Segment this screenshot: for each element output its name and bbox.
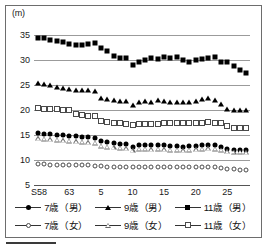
legend-item[interactable]: 7歳（男） [15,200,88,214]
filled-triangle-marker [105,205,111,210]
legend-item[interactable]: 11歳（男） [175,200,252,214]
data-point [168,165,173,170]
legend-row: 7歳（男）9歳（男）11歳（男） [5,198,262,216]
data-point [244,167,249,172]
bottom-rule [6,242,56,244]
data-point [200,165,205,170]
data-point [42,162,47,167]
data-point [174,165,179,170]
legend-item[interactable]: 11歳（女） [175,218,252,232]
data-point [111,164,116,169]
data-point [136,165,141,170]
data-point [67,162,72,167]
legend-line [175,204,201,211]
legend-label: 11歳（男） [204,200,252,214]
y-axis-tick-label: 5 [25,180,30,190]
data-point [218,165,223,170]
data-point [73,163,78,168]
chart-figure: (m) 5101520253035 S5863510152025 7歳（男）9歳… [0,0,267,248]
filled-circle-marker [26,205,31,210]
open-square-marker [185,222,191,228]
chart-legend: 7歳（男）9歳（男）11歳（男）7歳（女）9歳（女）11歳（女） [5,198,262,234]
data-point [231,167,236,172]
data-point [187,165,192,170]
legend-line [95,204,121,211]
x-axis-tick-label: S58 [31,187,47,197]
series-circle-o [34,27,250,185]
legend-line [15,204,41,211]
open-circle-marker [26,223,31,228]
data-point [143,165,148,170]
plot-area: 5101520253035 S5863510152025 [34,27,250,185]
y-axis-tick-label: 30 [20,55,30,65]
data-point [54,162,59,167]
x-axis-tick-label: 63 [64,187,74,197]
legend-label: 9歳（女） [124,218,168,232]
legend-label: 7歳（女） [44,218,88,232]
legend-item[interactable]: 7歳（女） [15,218,88,232]
data-point [117,164,122,169]
y-axis-tick-label: 35 [20,30,30,40]
open-triangle-marker [105,223,111,228]
y-axis-tick-label: 15 [20,130,30,140]
data-point [149,165,154,170]
x-axis-tick-label: 25 [222,187,232,197]
x-axis-tick-label: 15 [159,187,169,197]
data-point [193,165,198,170]
data-point [105,164,110,169]
x-axis-tick-label: 5 [98,187,103,197]
legend-line [95,222,121,229]
x-axis-line [34,185,250,186]
y-axis-tick-label: 10 [20,155,30,165]
data-point [61,162,66,167]
legend-row: 7歳（女）9歳（女）11歳（女） [5,216,262,234]
data-point [162,165,167,170]
data-point [48,162,53,167]
legend-line [175,222,201,229]
data-point [212,165,217,170]
data-point [206,165,211,170]
data-point [35,162,40,167]
data-point [181,165,186,170]
data-point [86,163,91,168]
legend-item[interactable]: 9歳（女） [95,218,168,232]
data-point [225,166,230,171]
data-point [124,164,129,169]
legend-label: 11歳（女） [204,218,252,232]
data-point [130,165,135,170]
data-point [80,163,85,168]
legend-item[interactable]: 9歳（男） [95,200,168,214]
y-axis-unit-label: (m) [12,8,25,18]
legend-line [15,222,41,229]
x-axis-tick-label: 20 [191,187,201,197]
legend-label: 7歳（男） [44,200,88,214]
data-point [98,164,103,169]
y-axis-tick-label: 25 [20,80,30,90]
data-point [237,167,242,172]
legend-label: 9歳（男） [124,200,168,214]
data-point [92,163,97,168]
filled-square-marker [185,205,190,210]
x-axis-tick-label: 10 [128,187,138,197]
y-axis-tick-label: 20 [20,105,30,115]
data-point [155,165,160,170]
